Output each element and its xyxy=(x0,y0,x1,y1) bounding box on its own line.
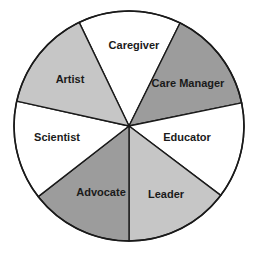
segment-label-care-manager: Care Manager xyxy=(152,77,225,89)
roles-wheel-diagram: CaregiverCare ManagerEducatorLeaderAdvoc… xyxy=(0,0,259,261)
segment-label-advocate: Advocate xyxy=(76,186,126,198)
segment-label-caregiver: Caregiver xyxy=(109,39,160,51)
segment-label-leader: Leader xyxy=(148,188,185,200)
segment-label-educator: Educator xyxy=(163,131,211,143)
segment-label-scientist: Scientist xyxy=(34,131,80,143)
segment-label-artist: Artist xyxy=(56,73,85,85)
